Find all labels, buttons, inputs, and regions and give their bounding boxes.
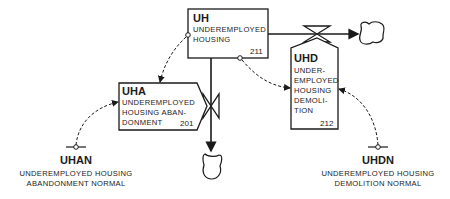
info-link-origin-uh-bottom	[238, 56, 243, 61]
info-link-origin-uh-left	[186, 33, 191, 38]
rate-uha-number: 201	[180, 119, 193, 128]
rate-uhd-line-3: HOUSING	[294, 87, 332, 96]
sink-cloud-right-icon	[360, 22, 385, 44]
rate-uhd-line-4: DEMOLI-	[294, 97, 328, 106]
constant-uhdn-line-1: UNDEREMPLOYED HOUSING	[308, 170, 448, 179]
info-link-uh-to-uha	[160, 37, 186, 82]
rate-uhd-line-2: EMPLOYED	[294, 77, 339, 86]
constant-uhan-icon	[74, 145, 79, 150]
rate-uha-line-3: DONMENT	[122, 119, 163, 128]
constant-uhan-line-2: ABANDONMENT NORMAL	[6, 180, 146, 189]
constant-uhan-line-1: UNDEREMPLOYED HOUSING	[6, 170, 146, 179]
info-link-uhdn-to-uhd	[339, 89, 378, 145]
rate-uhd-line-1: UNDER-	[294, 67, 325, 76]
info-link-uh-to-uhd	[242, 60, 290, 88]
rate-uhd-code: UHD	[294, 52, 318, 65]
rate-uha-line-2: HOUSING ABAN-	[122, 109, 186, 118]
rate-uha-line-1: UNDEREMPLOYED	[122, 99, 195, 108]
constant-uhdn-line-2: DEMOLITION NORMAL	[308, 180, 448, 189]
constant-uhdn-icon	[376, 145, 381, 150]
level-uh-code: UH	[193, 12, 209, 25]
sink-cloud-bottom-icon	[203, 154, 222, 179]
level-uh-line-2: HOUSING	[193, 36, 231, 45]
rate-uha-code: UHA	[122, 85, 146, 98]
level-uh-number: 211	[250, 47, 263, 56]
level-uh-line-1: UNDEREMPLOYED	[193, 26, 266, 35]
info-link-uhan-to-uha	[76, 102, 118, 145]
rate-uhd-line-5: TION	[294, 107, 313, 116]
rate-uhd-number: 212	[320, 119, 333, 128]
constant-uhdn-code: UHDN	[318, 154, 438, 167]
constant-uhan-code: UHAN	[16, 154, 136, 167]
